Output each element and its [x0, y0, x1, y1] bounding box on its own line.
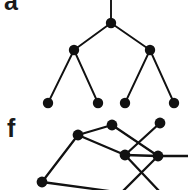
graph-node — [155, 118, 166, 129]
tree-edge — [125, 50, 150, 103]
tree-edge — [74, 23, 111, 50]
graph-edge-open — [42, 182, 116, 190]
tree-edge — [74, 50, 98, 103]
tree-node — [43, 98, 53, 108]
tree-edge — [48, 50, 74, 103]
graph-drawing-svg — [0, 0, 188, 190]
figure-container: a f — [0, 0, 188, 190]
graph-edge — [42, 135, 78, 182]
tree-edge — [111, 23, 150, 50]
tree-edge-group — [48, 0, 174, 103]
graph-edge-group — [42, 123, 188, 190]
tree-node — [169, 98, 179, 108]
graph-edge — [78, 135, 125, 155]
graph-edge — [125, 123, 160, 155]
graph-node — [73, 130, 84, 141]
tree-node — [145, 45, 155, 55]
tree-node — [69, 45, 79, 55]
tree-edge — [150, 50, 174, 103]
tree-node — [106, 18, 116, 28]
tree-node-group — [43, 18, 179, 108]
graph-node — [120, 150, 131, 161]
tree-node — [93, 98, 103, 108]
graph-node — [37, 177, 48, 188]
graph-node — [153, 151, 164, 162]
tree-node — [120, 98, 130, 108]
graph-node — [107, 120, 118, 131]
